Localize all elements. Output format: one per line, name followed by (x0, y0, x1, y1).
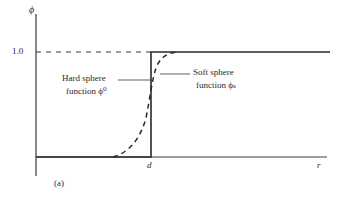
phi-vs-r-diagram (0, 0, 345, 198)
x-tick-label: d (147, 161, 152, 170)
soft-sphere-curve (113, 52, 178, 157)
soft-sphere-label-line1: Soft sphere (193, 68, 234, 77)
panel-label: (a) (54, 179, 64, 188)
soft-sphere-label-line2: function ϕₛ (196, 81, 236, 90)
x-axis-label: r (317, 161, 321, 170)
hard-sphere-curve (36, 52, 330, 157)
hard-sphere-label-line1: Hard sphere (62, 74, 106, 83)
y-tick-label: 1.0 (12, 47, 23, 56)
hard-sphere-label-line2: function ϕ⁰ (66, 87, 107, 96)
y-axis-label: ϕ (29, 5, 34, 15)
